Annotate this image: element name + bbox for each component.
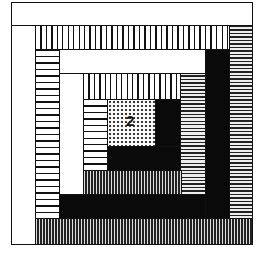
right-hstripe-inner <box>180 73 206 195</box>
bottom-vstripe-outer <box>35 218 253 245</box>
left-white-outer <box>11 25 36 245</box>
top-white-mid <box>59 49 206 74</box>
bottom-vstripe-inner <box>83 170 182 195</box>
bottom-black-mid <box>59 194 206 219</box>
right-black-core <box>155 99 181 147</box>
top-vstripe-outer <box>35 25 230 50</box>
center-label: 2 <box>126 112 134 129</box>
left-white-inner <box>59 73 84 195</box>
right-black-mid <box>205 49 230 219</box>
right-hstripe-outer <box>229 25 253 219</box>
top-white-outer <box>11 2 253 26</box>
bottom-black-core <box>107 146 181 171</box>
top-vstripe-inner <box>83 73 182 100</box>
left-hstripe-inner <box>83 99 108 171</box>
left-hstripe-mid <box>35 49 60 219</box>
